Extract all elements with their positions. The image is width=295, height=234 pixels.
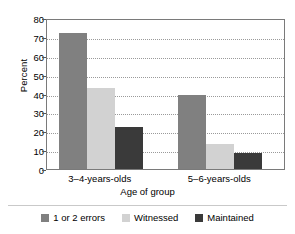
legend-item[interactable]: Witnessed xyxy=(122,212,178,223)
y-axis-tick-label: 80 xyxy=(4,14,44,25)
legend-separator xyxy=(8,205,287,206)
bar-chart-figure: Percent 01020304050607080 3–4-years-olds… xyxy=(0,0,295,234)
bar xyxy=(87,88,115,169)
y-axis-tick-label: 60 xyxy=(4,51,44,62)
y-axis-tick-label: 0 xyxy=(4,165,44,176)
bar xyxy=(178,95,206,169)
y-axis-tick-label: 40 xyxy=(4,89,44,100)
y-axis-tick-label: 10 xyxy=(4,146,44,157)
chart-legend: 1 or 2 errorsWitnessedMaintained xyxy=(0,212,295,223)
y-axis-tick-label: 30 xyxy=(4,108,44,119)
plot-area xyxy=(46,19,285,170)
x-axis-tick-label: 3–4-years-olds xyxy=(68,173,131,184)
x-axis-tick-label: 5–6-years-olds xyxy=(188,173,251,184)
y-axis-tick-label: 70 xyxy=(4,32,44,43)
legend-swatch-icon xyxy=(41,214,49,222)
legend-label: 1 or 2 errors xyxy=(53,212,105,223)
bar xyxy=(234,153,262,169)
y-axis-tick-label: 20 xyxy=(4,127,44,138)
y-axis-tick-label: 50 xyxy=(4,70,44,81)
y-axis-tick-mark xyxy=(42,170,46,171)
legend-label: Maintained xyxy=(207,212,253,223)
legend-label: Witnessed xyxy=(134,212,178,223)
legend-item[interactable]: 1 or 2 errors xyxy=(41,212,105,223)
bar xyxy=(206,144,234,169)
bar xyxy=(59,33,87,169)
legend-swatch-icon xyxy=(195,214,203,222)
legend-swatch-icon xyxy=(122,214,130,222)
plot-inner xyxy=(47,20,284,169)
x-axis-title: Age of group xyxy=(0,186,295,197)
legend-item[interactable]: Maintained xyxy=(195,212,253,223)
bar xyxy=(115,127,143,169)
